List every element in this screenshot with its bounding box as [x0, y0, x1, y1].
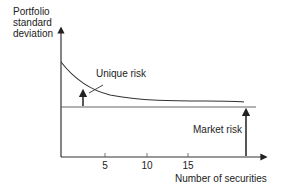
y-axis-label-line-3: deviation: [13, 28, 53, 39]
y-axis-label-line-2: standard: [13, 17, 53, 28]
y-axis-label: Portfolio standard deviation: [13, 6, 53, 39]
x-tick-label-15: 15: [182, 160, 193, 171]
unique-risk-label: Unique risk: [96, 68, 146, 80]
diversification-chart: Portfolio standard deviation 5 10 15 Num…: [0, 0, 284, 191]
x-axis-label: Number of securities: [175, 173, 267, 185]
x-tick-label-5: 5: [102, 160, 108, 171]
market-risk-label: Market risk: [193, 124, 242, 136]
x-tick-label-10: 10: [141, 160, 152, 171]
total-risk-curve: [61, 62, 244, 102]
y-axis-label-line-1: Portfolio: [13, 6, 53, 17]
